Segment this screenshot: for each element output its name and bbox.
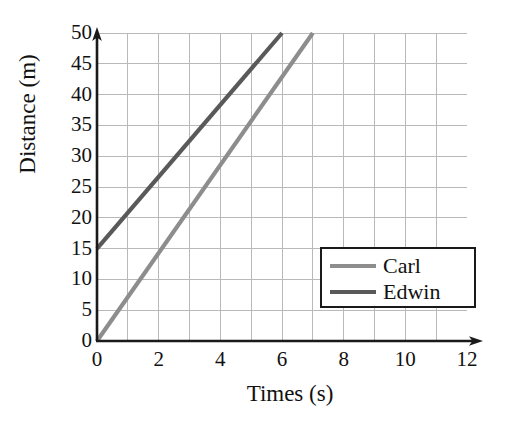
y-tick-label: 25 bbox=[52, 176, 92, 197]
x-tick-label: 8 bbox=[324, 349, 364, 370]
legend-swatch-edwin bbox=[330, 290, 376, 294]
y-tick-label: 10 bbox=[52, 268, 92, 289]
y-tick-label: 30 bbox=[52, 145, 92, 166]
x-axis-title: Times (s) bbox=[180, 381, 400, 406]
y-tick-label: 45 bbox=[52, 53, 92, 74]
legend-label-carl: Carl bbox=[383, 255, 421, 277]
x-axis-tick-labels: 024681012 bbox=[97, 349, 497, 377]
legend-swatch-carl bbox=[330, 264, 376, 268]
legend-item-carl: Carl bbox=[322, 253, 474, 279]
legend-label-edwin: Edwin bbox=[383, 281, 440, 303]
y-tick-label: 0 bbox=[52, 330, 92, 351]
y-tick-label: 35 bbox=[52, 114, 92, 135]
y-tick-label: 15 bbox=[52, 238, 92, 259]
x-tick-label: 2 bbox=[139, 349, 179, 370]
x-tick-label: 0 bbox=[77, 349, 117, 370]
chart-figure: 05101520253035404550 024681012 Times (s)… bbox=[0, 0, 522, 425]
y-tick-label: 40 bbox=[52, 84, 92, 105]
y-tick-label: 50 bbox=[52, 22, 92, 43]
x-tick-label: 10 bbox=[385, 349, 425, 370]
x-tick-label: 6 bbox=[262, 349, 302, 370]
x-tick-label: 4 bbox=[200, 349, 240, 370]
y-axis-title: Distance (m) bbox=[14, 24, 42, 204]
chart-legend: Carl Edwin bbox=[320, 247, 476, 308]
legend-item-edwin: Edwin bbox=[322, 279, 474, 305]
x-tick-label: 12 bbox=[447, 349, 487, 370]
y-axis-title-wrapper: Distance (m) bbox=[14, 24, 42, 204]
y-tick-label: 5 bbox=[52, 299, 92, 320]
y-tick-label: 20 bbox=[52, 207, 92, 228]
